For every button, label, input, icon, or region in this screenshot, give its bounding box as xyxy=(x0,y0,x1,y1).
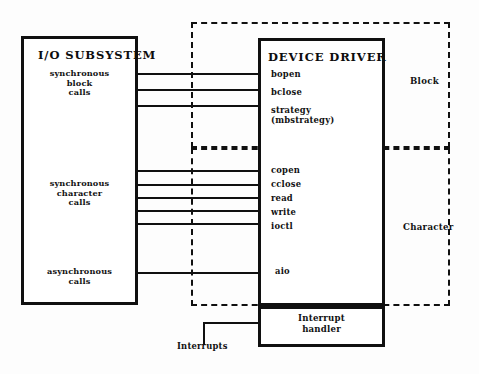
device-driver-entry-cclose: cclose xyxy=(271,180,301,190)
device-driver-entry-strategy: strategy (mbstrategy) xyxy=(271,106,334,125)
connector-line-aio xyxy=(138,272,263,274)
connector-line-bclose xyxy=(138,89,263,91)
device-driver-entry-bopen: bopen xyxy=(271,70,301,80)
device-driver-entry-read: read xyxy=(271,194,293,204)
io-call-group-asynchronous: asynchronous calls xyxy=(26,267,133,286)
interrupt-handler-title: Interrupt handler xyxy=(258,313,385,334)
interrupt-connector-horizontal xyxy=(203,322,263,324)
io-subsystem-title: I/O SUBSYSTEM xyxy=(38,48,156,62)
device-driver-title: DEVICE DRIVER xyxy=(268,50,387,64)
connector-line-bopen xyxy=(138,73,263,75)
connector-line-write xyxy=(138,210,263,212)
device-driver-entry-aio: aio xyxy=(275,267,290,277)
connector-line-copen xyxy=(138,170,263,172)
device-driver-entry-copen: copen xyxy=(271,166,300,176)
connector-line-read xyxy=(138,197,263,199)
region-label-block: Block xyxy=(410,76,439,86)
connector-line-cclose xyxy=(138,184,263,186)
device-driver-entry-ioctl: ioctl xyxy=(271,222,293,232)
interrupts-caption: Interrupts xyxy=(177,341,228,351)
diagram-canvas: I/O SUBSYSTEM synchronous block calls sy… xyxy=(0,0,479,374)
io-call-group-synchronous-block: synchronous block calls xyxy=(26,69,133,98)
io-call-group-synchronous-character: synchronous character calls xyxy=(26,179,133,208)
connector-line-ioctl xyxy=(138,223,263,225)
region-label-character: Character xyxy=(403,222,454,232)
device-driver-entry-bclose: bclose xyxy=(271,88,302,98)
device-driver-entry-write: write xyxy=(271,208,296,218)
connector-line-strategy xyxy=(138,105,263,107)
